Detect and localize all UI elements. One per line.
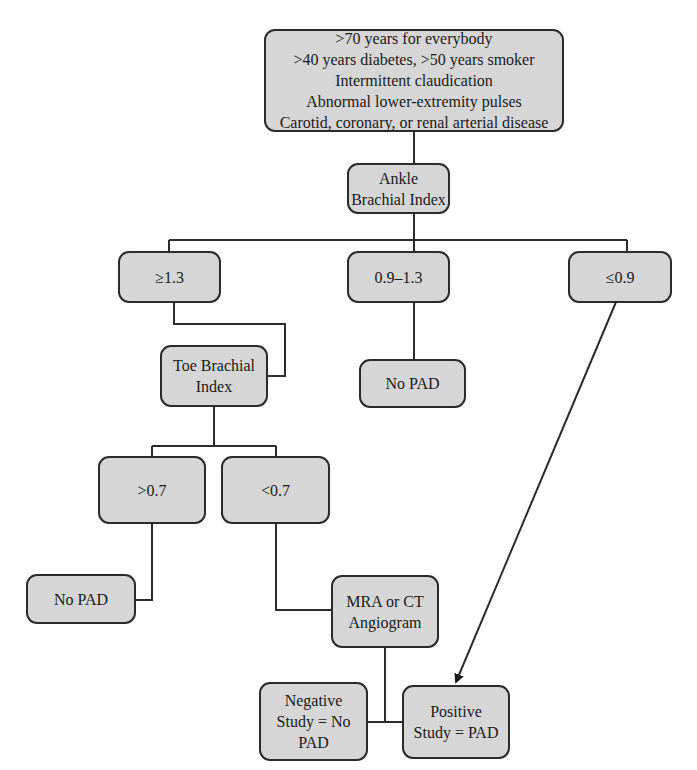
imaging-label-line-1: MRA or CT [346, 591, 423, 612]
abi-low-label: ≤0.9 [606, 267, 635, 288]
abi-high-box: ≥1.3 [118, 251, 221, 303]
tbi-high-label: >0.7 [137, 480, 166, 501]
ankle-brachial-index-box: Ankle Brachial Index [347, 163, 450, 214]
positive-label-line-2: Study = PAD [414, 722, 499, 743]
screening-criteria-box: >70 years for everybody >40 years diabet… [264, 29, 564, 132]
abi-label-line-2: Brachial Index [351, 189, 446, 210]
tbi-low-box: <0.7 [221, 456, 330, 524]
positive-label-line-1: Positive [430, 701, 482, 722]
mra-ct-angiogram-box: MRA or CT Angiogram [331, 575, 439, 648]
criteria-line-5: Carotid, coronary, or renal arterial dis… [280, 112, 549, 133]
tbi-high-box: >0.7 [98, 456, 206, 524]
positive-study-box: Positive Study = PAD [402, 685, 510, 759]
negative-label-line-3: PAD [298, 732, 329, 753]
imaging-label-line-2: Angiogram [349, 612, 422, 633]
criteria-line-1: >70 years for everybody [336, 28, 493, 49]
abi-normal-box: 0.9–1.3 [347, 251, 450, 303]
tbi-label-line-2: Index [196, 376, 232, 397]
tbi-low-label: <0.7 [261, 480, 290, 501]
pad-diagnosis-flowchart: >70 years for everybody >40 years diabet… [0, 0, 697, 770]
negative-label-line-1: Negative [285, 690, 343, 711]
no-pad-left-box: No PAD [26, 574, 136, 624]
criteria-line-4: Abnormal lower-extremity pulses [306, 91, 522, 112]
abi-low-box: ≤0.9 [568, 251, 672, 303]
abi-high-label: ≥1.3 [155, 267, 184, 288]
tbi-label-line-1: Toe Brachial [173, 355, 255, 376]
criteria-line-3: Intermittent claudication [335, 70, 493, 91]
negative-label-line-2: Study = No [277, 711, 351, 732]
no-pad-middle-box: No PAD [359, 359, 466, 408]
negative-study-box: Negative Study = No PAD [259, 682, 368, 761]
abi-label-line-1: Ankle [379, 168, 418, 189]
no-pad-left-label: No PAD [54, 589, 108, 610]
criteria-line-2: >40 years diabetes, >50 years smoker [293, 49, 534, 70]
no-pad-middle-label: No PAD [385, 373, 439, 394]
abi-normal-label: 0.9–1.3 [375, 267, 423, 288]
toe-brachial-index-box: Toe Brachial Index [160, 345, 268, 407]
